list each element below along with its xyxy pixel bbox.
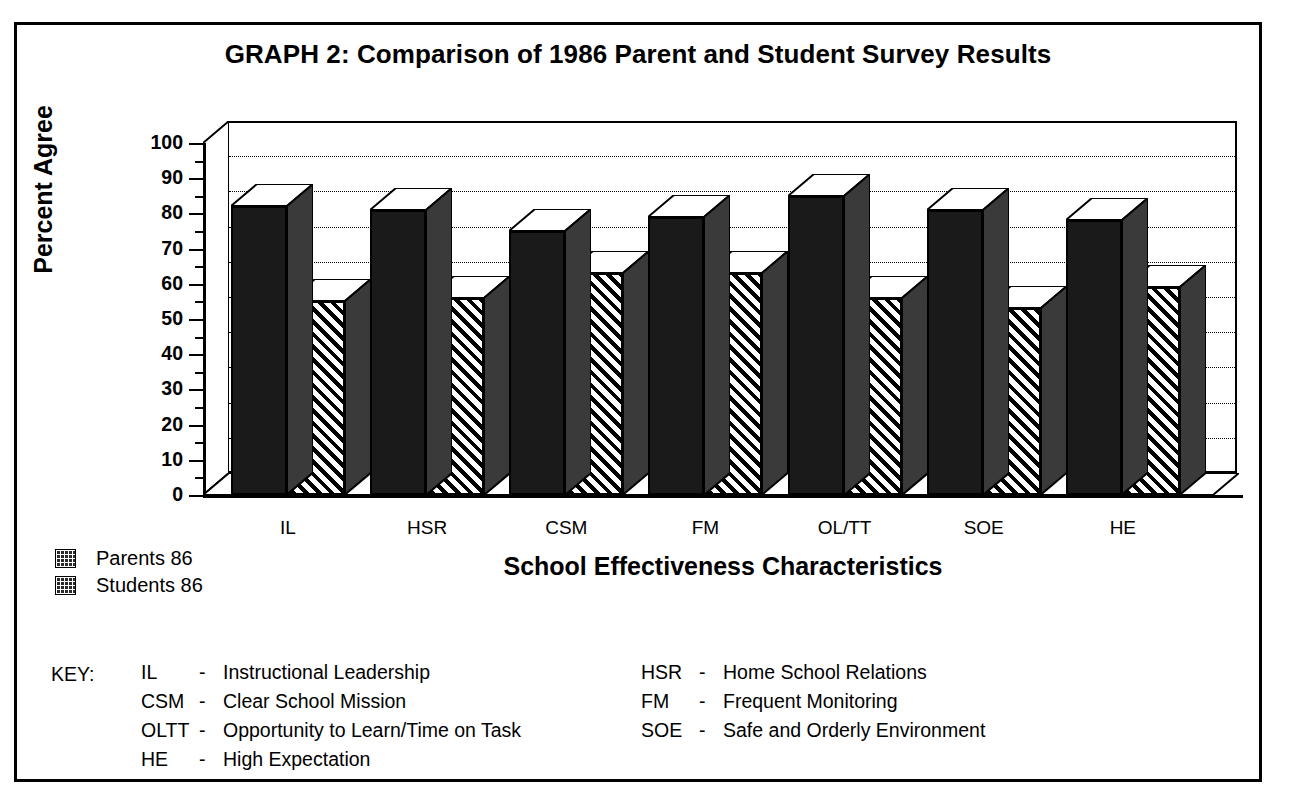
y-tick-minor-15 bbox=[195, 442, 203, 444]
key-description: Safe and Orderly Environment bbox=[723, 719, 985, 742]
y-axis-label-30: 30 bbox=[131, 379, 183, 399]
x-axis-label-SOE: SOE bbox=[924, 517, 1044, 539]
bar-side-face bbox=[565, 209, 591, 495]
x-axis-label-CSM: CSM bbox=[506, 517, 626, 539]
legend-label-parents: Parents 86 bbox=[96, 547, 193, 570]
bar-front-face bbox=[927, 210, 983, 495]
y-axis-label-70: 70 bbox=[131, 239, 183, 259]
key-description: Clear School Mission bbox=[223, 690, 406, 713]
key-dash: - bbox=[199, 661, 223, 684]
plot-left-wall bbox=[203, 121, 229, 495]
y-tick-30 bbox=[189, 389, 203, 391]
legend-item: Parents 86 bbox=[55, 545, 203, 572]
bar-side-face bbox=[902, 276, 928, 495]
key-abbreviation: FM bbox=[641, 690, 699, 713]
bar-front-face bbox=[648, 217, 704, 495]
y-axis-label-50: 50 bbox=[131, 309, 183, 329]
legend-item: Students 86 bbox=[55, 572, 203, 599]
key-column-right: HSR-Home School RelationsFM-Frequent Mon… bbox=[641, 661, 985, 748]
gridline-100 bbox=[229, 121, 1237, 122]
bar-parents-IL bbox=[231, 184, 313, 495]
bar-side-face bbox=[345, 279, 371, 495]
y-tick-minor-75 bbox=[195, 231, 203, 233]
key-row-soe: SOE-Safe and Orderly Environment bbox=[641, 719, 985, 748]
y-tick-minor-25 bbox=[195, 407, 203, 409]
y-axis-line bbox=[203, 143, 206, 495]
y-axis-label-0: 0 bbox=[131, 485, 183, 505]
x-axis-label-HE: HE bbox=[1063, 517, 1183, 539]
key-row-oltt: OLTT-Opportunity to Learn/Time on Task bbox=[141, 719, 521, 748]
key-abbreviation: IL bbox=[141, 661, 199, 684]
key-dash: - bbox=[699, 661, 723, 684]
y-tick-10 bbox=[189, 460, 203, 462]
y-axis-label-100: 100 bbox=[131, 133, 183, 153]
bar-side-face bbox=[1180, 265, 1206, 495]
y-tick-50 bbox=[189, 319, 203, 321]
key-dash: - bbox=[199, 748, 223, 771]
key-row-csm: CSM-Clear School Mission bbox=[141, 690, 521, 719]
y-axis-label-20: 20 bbox=[131, 415, 183, 435]
x-axis-label-IL: IL bbox=[228, 517, 348, 539]
y-tick-80 bbox=[189, 213, 203, 215]
bar-front-face bbox=[370, 210, 426, 495]
x-axis-label-FM: FM bbox=[645, 517, 765, 539]
key-dash: - bbox=[199, 690, 223, 713]
key-abbreviation: SOE bbox=[641, 719, 699, 742]
x-axis-title: School Effectiveness Characteristics bbox=[203, 552, 1243, 581]
key-dash: - bbox=[199, 719, 223, 742]
bar-parents-HSR bbox=[370, 188, 452, 495]
y-axis-label-80: 80 bbox=[131, 203, 183, 223]
legend-swatch-parents bbox=[55, 549, 76, 568]
bar-side-face bbox=[762, 251, 788, 495]
y-tick-90 bbox=[189, 178, 203, 180]
key-row-hsr: HSR-Home School Relations bbox=[641, 661, 985, 690]
key-row-fm: FM-Frequent Monitoring bbox=[641, 690, 985, 719]
gridline-90 bbox=[229, 156, 1237, 157]
key-abbreviation: OLTT bbox=[141, 719, 199, 742]
x-axis-label-HSR: HSR bbox=[367, 517, 487, 539]
y-tick-40 bbox=[189, 354, 203, 356]
bar-parents-FM bbox=[648, 195, 730, 495]
chart-title: GRAPH 2: Comparison of 1986 Parent and S… bbox=[17, 39, 1259, 70]
y-tick-minor-85 bbox=[195, 196, 203, 198]
y-axis-label-90: 90 bbox=[131, 168, 183, 188]
key-abbreviation: HSR bbox=[641, 661, 699, 684]
bar-side-face bbox=[426, 188, 452, 495]
graph-figure: GRAPH 2: Comparison of 1986 Parent and S… bbox=[14, 22, 1262, 782]
y-axis-label-60: 60 bbox=[131, 274, 183, 294]
y-tick-70 bbox=[189, 249, 203, 251]
y-tick-minor-45 bbox=[195, 337, 203, 339]
y-axis-label-10: 10 bbox=[131, 450, 183, 470]
key-description: Opportunity to Learn/Time on Task bbox=[223, 719, 521, 742]
y-tick-minor-5 bbox=[195, 477, 203, 479]
y-tick-minor-95 bbox=[195, 161, 203, 163]
bar-side-face bbox=[983, 188, 1009, 495]
y-axis-label-40: 40 bbox=[131, 344, 183, 364]
bar-side-face bbox=[704, 195, 730, 495]
legend-swatch-students bbox=[55, 576, 76, 595]
y-tick-20 bbox=[189, 425, 203, 427]
y-tick-100 bbox=[189, 143, 203, 145]
plot-area bbox=[203, 121, 1243, 495]
bar-front-face bbox=[788, 196, 844, 495]
bar-parents-HE bbox=[1066, 198, 1148, 495]
x-axis-label-OL/TT: OL/TT bbox=[785, 517, 905, 539]
bar-side-face bbox=[1122, 198, 1148, 495]
key-description: Home School Relations bbox=[723, 661, 927, 684]
bar-parents-CSM bbox=[509, 209, 591, 495]
y-tick-minor-35 bbox=[195, 372, 203, 374]
y-tick-0 bbox=[189, 495, 203, 497]
key-description: High Expectation bbox=[223, 748, 370, 771]
bar-front-face bbox=[231, 206, 287, 495]
bar-side-face bbox=[484, 276, 510, 495]
bar-side-face bbox=[844, 174, 870, 495]
y-tick-60 bbox=[189, 284, 203, 286]
bar-side-face bbox=[1041, 286, 1067, 495]
key-column-left: IL-Instructional LeadershipCSM-Clear Sch… bbox=[141, 661, 521, 777]
key-abbreviation: CSM bbox=[141, 690, 199, 713]
bar-parents-OL/TT bbox=[788, 174, 870, 495]
bar-parents-SOE bbox=[927, 188, 1009, 495]
key-heading: KEY: bbox=[51, 663, 94, 686]
x-axis-line bbox=[203, 495, 1243, 498]
y-axis-title: Percent Agree bbox=[29, 60, 58, 320]
